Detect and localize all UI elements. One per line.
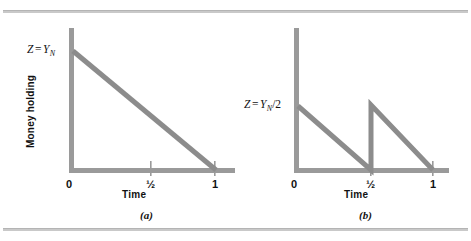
panel-b-caption: (b) [359, 210, 372, 221]
panel-b-xtick-label-0: 0 [291, 179, 297, 190]
panel-a: Money holding Z=YN 0 ½ 1 Time (a) [0, 0, 235, 241]
panel-a-x-axis [69, 168, 235, 173]
panel-a-xtick-label-0: 0 [66, 179, 72, 190]
panel-a-value-label-operator: = [33, 43, 43, 55]
panel-a-xtick-label-one: 1 [212, 179, 218, 190]
panel-a-xtick-half [150, 161, 152, 176]
panel-a-y-axis [69, 28, 74, 173]
panel-b-series-line [298, 105, 433, 170]
panel-b-y-axis [294, 28, 299, 173]
panel-a-xtick-label-half: ½ [146, 179, 155, 190]
panel-a-x-axis-label: Time [122, 190, 146, 200]
panel-a-value-label: Z=YN [27, 44, 55, 58]
panel-a-caption: (a) [140, 210, 153, 221]
panel-b-value-label-suffix: /2 [272, 98, 281, 110]
panel-b-plot [236, 0, 471, 241]
panel-b-value-label: Z=YN/2 [244, 99, 281, 113]
panel-a-series-line [73, 51, 216, 170]
panel-a-y-axis-label: Money holding [26, 75, 36, 148]
panel-b-x-axis-label: Time [344, 190, 368, 200]
panel-a-value-label-subscript: N [49, 49, 55, 58]
panel-b: Z=YN/2 0 ½ 1 Time (b) [236, 0, 471, 241]
panel-b-value-label-operator: = [250, 98, 260, 110]
panel-b-xtick-label-one: 1 [430, 179, 436, 190]
figure-container: Money holding Z=YN 0 ½ 1 Time (a) Z=YN/2… [0, 0, 471, 241]
